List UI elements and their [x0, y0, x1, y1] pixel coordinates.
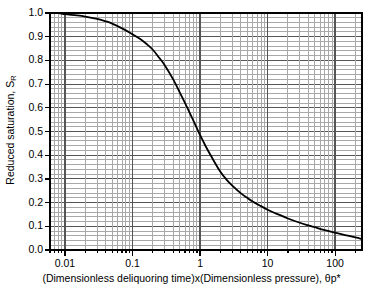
y-tick-label: 0.2: [13, 197, 43, 208]
x-tick-label: 100: [305, 258, 365, 269]
x-tick-label: 0.01: [35, 258, 95, 269]
x-tick-label: 10: [238, 258, 298, 269]
y-tick-label: 1.0: [13, 7, 43, 18]
x-tick-label: 0.1: [103, 258, 163, 269]
y-tick-label: 0.9: [13, 31, 43, 42]
y-tick-label: 0.1: [13, 220, 43, 231]
y-tick-label: 0.4: [13, 149, 43, 160]
y-tick-label: 0.0: [13, 244, 43, 255]
y-tick-label: 0.3: [13, 173, 43, 184]
x-tick-label: 1: [170, 258, 230, 269]
y-tick-label: 0.8: [13, 54, 43, 65]
x-axis-label: (Dimensionless deliquoring time)x(Dimens…: [0, 272, 383, 284]
chart-figure: Reduced saturation, SR (Dimensionless de…: [0, 0, 383, 295]
plot-canvas: [0, 0, 383, 295]
y-tick-label: 0.5: [13, 126, 43, 137]
y-tick-label: 0.6: [13, 102, 43, 113]
y-tick-label: 0.7: [13, 78, 43, 89]
